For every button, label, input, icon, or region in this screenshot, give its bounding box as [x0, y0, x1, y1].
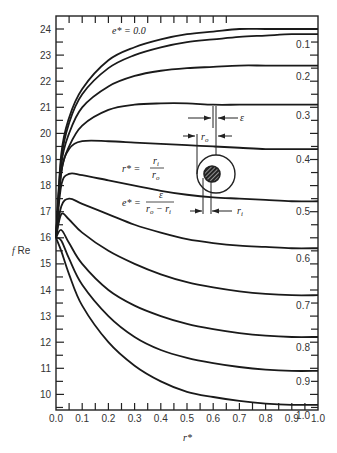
curve-label: 0.3 [296, 110, 310, 121]
y-tick-label: 22 [40, 76, 52, 87]
equation-e-star: e* = ε ro − ri [122, 189, 174, 216]
curve-label: 0.7 [296, 300, 310, 311]
x-tick-label: 1.0 [311, 413, 325, 424]
svg-text:ε: ε [159, 189, 163, 200]
svg-text:ro − ri: ro − ri [146, 203, 171, 216]
curve [56, 213, 318, 295]
svg-text:r* =: r* = [122, 163, 140, 174]
curve-label: 0.6 [296, 253, 310, 264]
y-tick-label: 17 [40, 206, 52, 217]
plot-border [56, 16, 318, 410]
y-tick-label: 11 [41, 363, 52, 374]
x-tick-label: 0.8 [259, 413, 273, 424]
svg-text:ri: ri [153, 155, 159, 168]
curve [56, 141, 318, 238]
curve-labels: 0.10.20.30.40.50.60.70.80.91.0 [296, 39, 310, 421]
curve [56, 238, 318, 405]
y-tick-label: 13 [40, 311, 52, 322]
x-tick-label: 0.4 [154, 413, 168, 424]
epsilon-label: ε [240, 112, 244, 123]
curves [56, 29, 318, 405]
y-tick-label: 21 [40, 102, 52, 113]
x-tick-label: 0.2 [101, 413, 115, 424]
y-tick-label: 24 [40, 24, 52, 35]
y-axis: 101112131415161718192021222324 [40, 24, 318, 408]
x-axis-title: r* [183, 432, 192, 443]
plot-frame [56, 16, 318, 410]
curve-label: 1.0 [296, 410, 310, 421]
y-tick-label: 19 [40, 154, 52, 165]
curve-label: 0.5 [296, 206, 310, 217]
y-tick-label: 10 [40, 389, 52, 400]
svg-text:ro: ro [152, 169, 160, 182]
curve [56, 238, 318, 371]
x-tick-label: 0.1 [75, 413, 89, 424]
curve [56, 103, 318, 238]
x-tick-label: 0.7 [232, 413, 246, 424]
x-tick-label: 0.3 [128, 413, 142, 424]
curve [56, 29, 318, 238]
equation-r-star: r* = ri ro [122, 155, 164, 182]
y-tick-label: 12 [40, 337, 52, 348]
curve [56, 173, 318, 238]
y-axis-title: f Re [12, 245, 31, 256]
x-tick-label: 0.5 [180, 413, 194, 424]
r-o-label: ro [201, 131, 209, 144]
r-i-label: ri [237, 205, 243, 218]
y-tick-label: 23 [40, 50, 52, 61]
curve [56, 65, 318, 237]
curve [56, 230, 318, 337]
y-tick-label: 16 [40, 232, 52, 243]
x-tick-label: 0.0 [49, 413, 63, 424]
svg-text:e* =: e* = [122, 197, 141, 208]
top-curve-label: e* = 0.0 [112, 25, 146, 36]
curve [56, 199, 318, 249]
curve-label: 0.8 [296, 342, 310, 353]
curve-label: 0.1 [296, 39, 310, 50]
curve-label: 0.4 [296, 154, 310, 165]
annulus-diagram: ε ro ri [183, 106, 244, 218]
y-tick-label: 20 [40, 128, 52, 139]
curve-label: 0.9 [296, 376, 310, 387]
y-tick-label: 18 [40, 180, 52, 191]
x-tick-label: 0.6 [206, 413, 220, 424]
chart: 101112131415161718192021222324 0.00.10.2… [0, 0, 337, 453]
y-tick-label: 15 [40, 258, 52, 269]
y-tick-label: 14 [40, 285, 52, 296]
curve-label: 0.2 [296, 71, 310, 82]
